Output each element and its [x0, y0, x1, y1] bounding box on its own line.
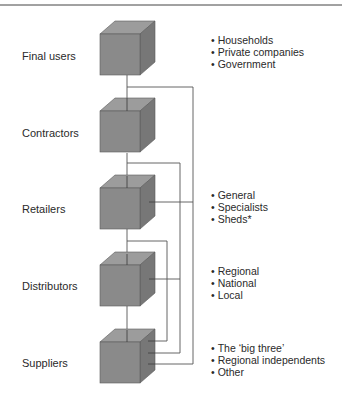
- level-label-suppliers: Suppliers: [22, 357, 68, 370]
- cube-front-face: [100, 188, 140, 229]
- bullet-item: Government: [211, 58, 304, 70]
- cube-front-face: [100, 34, 140, 75]
- level-label-distributors: Distributors: [22, 280, 78, 293]
- bullet-item: National: [211, 277, 259, 289]
- level-label-final-users: Final users: [22, 50, 76, 63]
- cube-contractors: [100, 98, 155, 152]
- cube-suppliers: [100, 329, 155, 383]
- distributors-bullets: Regional National Local: [211, 265, 259, 302]
- bullet-item: Local: [211, 289, 259, 301]
- cubes: [100, 21, 155, 383]
- bullet-item: Private companies: [211, 46, 304, 58]
- bullet-item: Specialists: [211, 201, 268, 213]
- bullet-item: Regional: [211, 265, 259, 277]
- bullet-item: Other: [211, 366, 325, 378]
- bullet-item: Households: [211, 34, 304, 46]
- cube-front-face: [100, 265, 140, 306]
- cube-front-face: [100, 342, 140, 383]
- cube-front-face: [100, 111, 140, 152]
- retailers-bullets: General Specialists Sheds*: [211, 189, 268, 226]
- bullet-item: The ‘big three’: [211, 342, 325, 354]
- level-label-retailers: Retailers: [22, 203, 65, 216]
- bullet-item: General: [211, 189, 268, 201]
- level-label-contractors: Contractors: [22, 127, 79, 140]
- final-users-bullets: Households Private companies Government: [211, 34, 304, 71]
- bullet-item: Sheds*: [211, 213, 268, 225]
- cube-final-users: [100, 21, 155, 75]
- suppliers-bullets: The ‘big three’ Regional independents Ot…: [211, 342, 325, 379]
- cube-retailers: [100, 175, 155, 229]
- cube-distributors: [100, 252, 155, 306]
- bullet-item: Regional independents: [211, 354, 325, 366]
